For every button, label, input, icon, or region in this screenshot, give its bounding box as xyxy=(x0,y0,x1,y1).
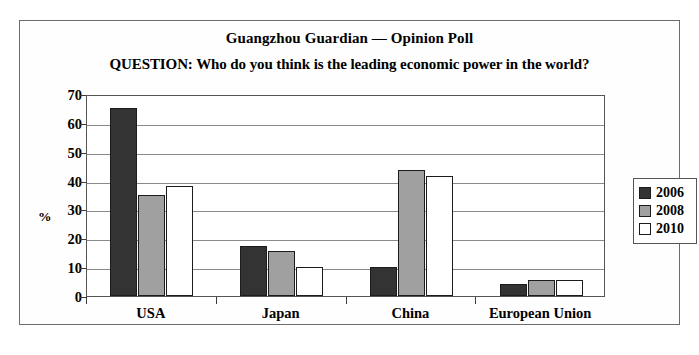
x-axis-tick-label: China xyxy=(391,305,429,322)
plot-area xyxy=(86,95,605,297)
x-axis-tick-label: European Union xyxy=(489,305,591,322)
chart-card: Guangzhou Guardian — Opinion Poll QUESTI… xyxy=(19,20,680,325)
bar xyxy=(138,195,165,296)
chart-question-label: QUESTION: Who do you think is the leadin… xyxy=(20,56,679,73)
bar-group xyxy=(110,96,193,296)
legend-item-label: 2010 xyxy=(656,222,684,236)
bar xyxy=(240,246,267,297)
y-axis-tick-labels: 010203040506070 xyxy=(56,95,82,297)
x-axis-tick xyxy=(475,297,476,304)
x-axis-tick xyxy=(216,297,217,304)
legend-swatch-icon xyxy=(639,205,651,217)
x-axis-ticks xyxy=(86,297,605,304)
bar xyxy=(426,176,453,296)
bar-group xyxy=(370,96,453,296)
bar xyxy=(370,267,397,296)
legend-item[interactable]: 2006 xyxy=(639,184,690,202)
bar xyxy=(500,284,527,296)
x-axis-tick xyxy=(86,297,87,304)
bar xyxy=(268,251,295,296)
bar-group xyxy=(240,96,323,296)
chart-title: Guangzhou Guardian — Opinion Poll xyxy=(20,30,679,47)
y-axis-title: % xyxy=(38,209,52,225)
legend-item[interactable]: 2010 xyxy=(639,220,690,238)
chart-legend: 200620082010 xyxy=(633,178,697,244)
bar xyxy=(296,267,323,296)
legend-item-label: 2006 xyxy=(656,186,684,200)
bar xyxy=(556,280,583,296)
legend-swatch-icon xyxy=(639,223,651,235)
bar-group xyxy=(500,96,583,296)
legend-swatch-icon xyxy=(639,187,651,199)
bar xyxy=(110,108,137,296)
x-axis-tick-labels: USAJapanChinaEuropean Union xyxy=(86,305,605,327)
bar xyxy=(398,170,425,296)
bar xyxy=(528,280,555,296)
x-axis-tick-label: Japan xyxy=(262,305,300,322)
bars-layer xyxy=(87,96,604,296)
bar xyxy=(166,186,193,296)
legend-item-label: 2008 xyxy=(656,204,684,218)
x-axis-tick xyxy=(346,297,347,304)
x-axis-tick-label: USA xyxy=(136,305,165,322)
legend-item[interactable]: 2008 xyxy=(639,202,690,220)
